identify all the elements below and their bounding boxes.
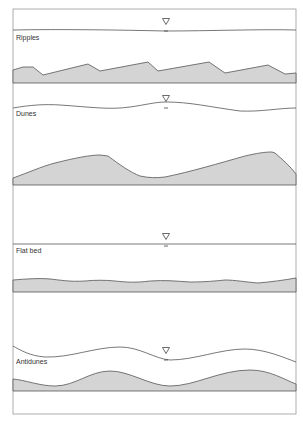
sediment-bed [13, 152, 296, 185]
water-level-triangle-icon [163, 348, 170, 354]
sediment-bed [13, 370, 296, 391]
panel-label: Flat bed [16, 247, 41, 254]
panel-label: Dunes [16, 110, 37, 117]
bedform-diagram: RipplesDunesFlat bedAntidunes [0, 0, 303, 422]
panel-antidunes: Antidunes [13, 346, 296, 391]
panel-label: Antidunes [16, 358, 48, 365]
water-level-triangle-icon [163, 234, 170, 240]
water-level-triangle-icon [163, 19, 170, 25]
water-surface-line [13, 30, 296, 31]
water-level-triangle-icon [163, 96, 170, 102]
water-surface-line [13, 102, 296, 111]
water-surface-line [13, 346, 296, 362]
panel-ripples: Ripples [13, 19, 296, 84]
sediment-bed [13, 278, 296, 292]
sediment-bed [13, 62, 296, 83]
panel-dunes: Dunes [13, 96, 296, 186]
panel-label: Ripples [16, 34, 40, 42]
panels-group: RipplesDunesFlat bedAntidunes [13, 19, 296, 392]
panel-flat-bed: Flat bed [13, 234, 296, 293]
diagram-canvas: RipplesDunesFlat bedAntidunes [0, 0, 303, 422]
